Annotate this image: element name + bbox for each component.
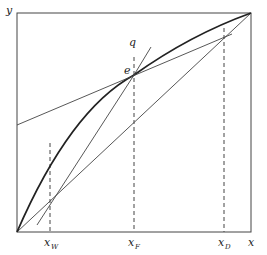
xd-label: x D [218, 236, 231, 251]
svg-text:F: F [134, 243, 141, 251]
stripping-line [37, 75, 134, 225]
q-line-label: q [129, 36, 136, 49]
svg-text:x: x [128, 236, 135, 249]
svg-text:x: x [218, 236, 225, 249]
point-e-label: e [124, 64, 131, 77]
q-line [134, 47, 151, 75]
svg-text:D: D [224, 243, 231, 251]
y-axis-label: y [5, 4, 13, 17]
svg-text:x: x [44, 236, 51, 249]
xf-label: x F [128, 236, 141, 251]
svg-text:W: W [51, 243, 59, 251]
x-axis-label: x [248, 236, 255, 249]
xw-label: x W [44, 236, 59, 251]
rectifying-line [17, 34, 232, 125]
mccabe-thiele-diagram: y x e q x W x F x D [0, 0, 267, 255]
